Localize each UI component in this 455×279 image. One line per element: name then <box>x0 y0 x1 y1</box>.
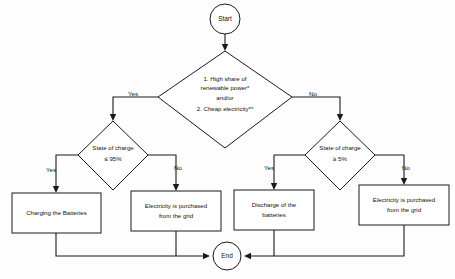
edge-discharge-to-end <box>244 230 274 259</box>
decision-main-line3: and/or <box>216 94 233 101</box>
decision-main-line1: 1. High share of <box>203 75 246 82</box>
node-process-purchase-left[interactable]: Electricity is purchased from the grid <box>131 191 221 231</box>
edge-charging-to-end <box>56 233 210 259</box>
process-discharge-line1: Discharge of the <box>252 201 297 208</box>
node-decision-right[interactable]: State of charge ≥ 5% <box>305 121 375 190</box>
decision-right-line2: ≥ 5% <box>333 155 347 162</box>
edge-main-yes <box>110 97 158 121</box>
node-process-discharge[interactable]: Discharge of the batteries <box>234 190 314 230</box>
process-purchase-left-line2: from the grid <box>159 212 193 219</box>
decision-left-line1: State of charge <box>92 144 134 151</box>
node-process-charging[interactable]: Charging the Batteries <box>12 193 101 233</box>
edge-label-left-no: No <box>174 164 182 171</box>
flowchart-svg: Start 1. High share of renewable power* … <box>0 0 455 279</box>
decision-main-line4: 2. Cheap electricity** <box>197 105 254 112</box>
node-start[interactable]: Start <box>210 4 240 34</box>
process-purchase-right-line1: Electricity is purchased <box>373 196 435 203</box>
node-end[interactable]: End <box>213 242 241 270</box>
arrowhead-icon <box>222 44 228 51</box>
edge-main-no <box>292 97 343 121</box>
edge-left-decision-no <box>148 155 179 191</box>
edge-left-decision-yes <box>53 155 78 193</box>
node-decision-left[interactable]: State of charge ≤ 95% <box>78 121 148 190</box>
decision-left-line2: ≤ 95% <box>104 155 122 162</box>
decision-right-line1: State of charge <box>319 144 361 151</box>
node-start-label: Start <box>218 15 232 22</box>
edge-start-to-main-decision <box>222 34 228 51</box>
flowchart-canvas: Start 1. High share of renewable power* … <box>0 0 455 279</box>
edge-label-main-no: No <box>309 90 317 97</box>
arrowhead-icon <box>244 253 251 259</box>
node-end-label: End <box>221 252 233 259</box>
decision-main-line2: renewable power* <box>201 84 250 91</box>
node-process-purchase-right[interactable]: Electricity is purchased from the grid <box>359 185 449 225</box>
edge-right-decision-yes <box>271 155 305 190</box>
arrowhead-icon <box>401 178 407 185</box>
node-decision-main[interactable]: 1. High share of renewable power* and/or… <box>158 51 292 148</box>
arrowhead-icon <box>173 184 179 191</box>
arrowhead-icon <box>53 186 59 193</box>
process-discharge-line2: batteries <box>262 211 285 218</box>
arrowhead-icon <box>271 183 277 190</box>
edge-label-right-no: No <box>402 164 410 171</box>
process-charging-line1: Charging the Batteries <box>26 209 87 216</box>
process-purchase-left-line1: Electricity is purchased <box>145 202 207 209</box>
edge-label-right-yes: Yes <box>264 164 274 171</box>
edge-label-main-yes: Yes <box>128 90 138 97</box>
edge-label-left-yes: Yes <box>46 166 56 173</box>
arrowhead-icon <box>110 114 116 121</box>
arrowhead-icon <box>337 114 343 121</box>
process-purchase-right-line2: from the grid <box>387 206 421 213</box>
arrowhead-icon <box>203 253 210 259</box>
